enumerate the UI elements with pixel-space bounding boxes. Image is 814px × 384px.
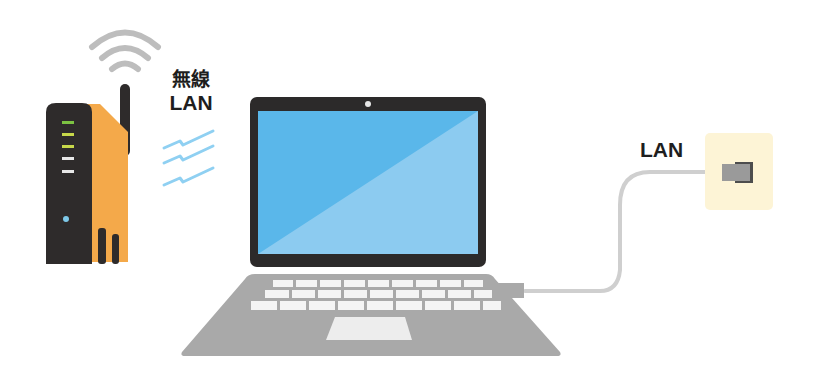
lan-cable	[496, 172, 722, 298]
wired-lan-label: LAN	[640, 139, 683, 160]
diagram-canvas	[0, 0, 814, 384]
laptop-icon	[181, 97, 560, 356]
wireless-lan-label-jp: 無線	[161, 70, 221, 89]
led-5	[62, 170, 74, 173]
led-4	[62, 157, 74, 160]
led-3	[62, 145, 74, 148]
trackpad	[326, 317, 412, 340]
led-2	[62, 133, 74, 136]
led-1	[62, 121, 74, 124]
power-led	[63, 216, 69, 222]
wireless-lan-label: 無線 LAN	[161, 70, 221, 113]
lan-wall-port-icon	[705, 133, 773, 210]
wireless-waves-icon	[164, 131, 213, 185]
router-icon	[46, 84, 130, 264]
network-diagram: 無線 LAN LAN	[0, 0, 814, 384]
wireless-lan-label-en: LAN	[161, 92, 221, 113]
wifi-signal-icon	[92, 33, 158, 70]
